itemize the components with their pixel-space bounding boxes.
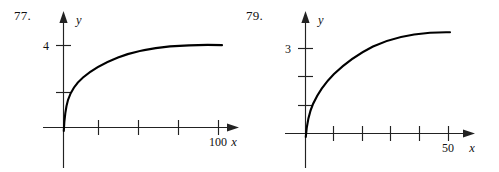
y-axis-label: y: [316, 13, 324, 27]
figure-77: 77. 4 100 y x: [0, 0, 250, 172]
y-axis-arrowhead: [301, 11, 309, 23]
y-axis-label: y: [74, 13, 82, 27]
x-axis-label: x: [230, 135, 237, 149]
plot-79: 3 50 y x: [250, 0, 499, 172]
x-axis-label: x: [468, 141, 475, 155]
x-tick-label-50: 50: [442, 141, 454, 155]
figure-79: 79. 3 50 y x: [250, 0, 499, 172]
curve-79: [306, 32, 450, 137]
y-tick-label-4: 4: [43, 39, 49, 53]
x-tick-label-100: 100: [209, 135, 227, 149]
x-axis-arrowhead: [227, 123, 239, 131]
plot-77: 4 100 y x: [0, 0, 250, 172]
y-axis-arrowhead: [59, 11, 67, 23]
x-axis-arrowhead: [463, 129, 475, 137]
curve-77: [64, 45, 222, 131]
y-tick-label-3: 3: [285, 42, 291, 56]
